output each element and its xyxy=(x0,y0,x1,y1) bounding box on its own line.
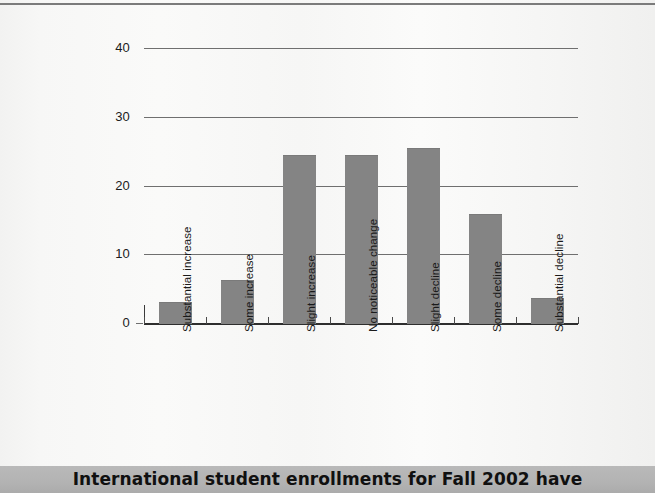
x-axis-label: No noticeable change xyxy=(367,219,379,332)
gridline-30 xyxy=(144,117,578,118)
y-tick-label-10: 10 xyxy=(96,246,130,261)
y-tick-stub-0 xyxy=(136,323,143,324)
y-tick-label-40: 40 xyxy=(96,40,130,55)
x-tick xyxy=(392,317,393,324)
x-tick xyxy=(206,317,207,324)
bar-chart: 010203040 Substantial increaseSome incre… xyxy=(0,0,655,455)
x-tick xyxy=(268,317,269,324)
x-axis-label: Substantial decline xyxy=(553,234,565,332)
gridline-40 xyxy=(144,48,578,49)
x-tick xyxy=(144,317,145,324)
x-axis-label: Slight decline xyxy=(429,262,441,332)
x-tick xyxy=(516,317,517,324)
x-axis-label: Some increase xyxy=(243,254,255,332)
y-tick-label-30: 30 xyxy=(96,109,130,124)
x-axis-label: Substantial increase xyxy=(181,226,193,332)
x-tick xyxy=(454,317,455,324)
x-axis-label: Some decline xyxy=(491,261,503,332)
y-tick-label-20: 20 xyxy=(96,178,130,193)
chart-page: 010203040 Substantial increaseSome incre… xyxy=(0,0,655,493)
x-tick-end xyxy=(578,317,579,324)
caption-text: International student enrollments for Fa… xyxy=(0,469,655,489)
x-axis-label: Slight increase xyxy=(305,255,317,332)
x-tick xyxy=(330,317,331,324)
y-tick-label-0: 0 xyxy=(96,315,130,330)
